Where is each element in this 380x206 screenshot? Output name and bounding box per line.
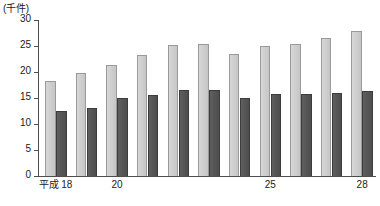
- x-tick-era-18: 平成: [39, 179, 61, 190]
- x-tick-label-25: 25: [265, 178, 276, 191]
- bar-dark-series-18: [56, 111, 67, 176]
- bar-dark-series-28: [362, 91, 373, 176]
- x-tick-year-18: 18: [61, 179, 72, 190]
- plot-area: 051015202530: [38, 20, 376, 176]
- bar-light-series-23: [198, 44, 209, 176]
- y-tick-label-30: 30: [20, 13, 31, 25]
- bar-dark-series-23: [209, 90, 220, 176]
- y-tick-20: 20: [34, 72, 38, 73]
- bar-light-series-26: [290, 44, 301, 176]
- y-tick-30: 30: [34, 20, 38, 21]
- x-tick-label-28: 28: [357, 178, 368, 191]
- y-tick-10: 10: [34, 124, 38, 125]
- y-tick-label-15: 15: [20, 91, 31, 103]
- x-axis-line: [38, 176, 376, 177]
- y-tick-25: 25: [34, 46, 38, 47]
- bar-dark-series-22: [179, 90, 190, 176]
- y-tick-label-10: 10: [20, 117, 31, 129]
- x-tick-label-18: 平成 18: [39, 178, 72, 191]
- bar-dark-series-27: [332, 93, 343, 176]
- bar-light-series-22: [168, 45, 179, 176]
- y-tick-0: 0: [34, 176, 38, 177]
- bars-layer: [39, 20, 376, 176]
- y-tick-label-5: 5: [25, 143, 31, 155]
- bar-light-series-28: [351, 31, 362, 176]
- bar-dark-series-21: [148, 95, 159, 176]
- bar-dark-series-20: [117, 98, 128, 176]
- bar-dark-series-26: [301, 94, 312, 176]
- bar-dark-series-24: [240, 98, 251, 176]
- x-axis-labels: 平成 18202528: [38, 178, 376, 196]
- bar-chart: (千件) 051015202530 平成 18202528: [0, 0, 380, 206]
- x-tick-label-20: 20: [112, 178, 123, 191]
- bar-light-series-18: [45, 81, 56, 176]
- bar-light-series-24: [229, 54, 240, 176]
- bar-light-series-20: [106, 65, 117, 176]
- bar-dark-series-19: [87, 108, 98, 176]
- y-tick-15: 15: [34, 98, 38, 99]
- y-tick-label-20: 20: [20, 65, 31, 77]
- y-tick-label-25: 25: [20, 39, 31, 51]
- y-tick-5: 5: [34, 150, 38, 151]
- bar-light-series-27: [321, 38, 332, 176]
- y-tick-label-0: 0: [25, 169, 31, 181]
- bar-dark-series-25: [271, 94, 282, 176]
- bar-light-series-25: [260, 46, 271, 176]
- bar-light-series-19: [76, 73, 87, 176]
- bar-light-series-21: [137, 55, 148, 176]
